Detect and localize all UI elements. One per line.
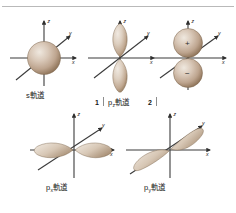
caption-px-sub: x — [50, 187, 53, 193]
panel-py-orbital: z y x py軌道 — [124, 108, 216, 184]
axis-label-z: z — [173, 111, 177, 117]
px-lobe-left — [34, 143, 73, 158]
panel-px-orbital: z y x px軌道 — [28, 108, 120, 184]
axis-label-x: x — [205, 151, 209, 157]
axis-label-z: z — [77, 111, 81, 117]
caption-pz-sub: z — [112, 102, 115, 108]
axis-label-x: x — [71, 59, 75, 65]
sign-minus: − — [185, 69, 190, 78]
pz-signed-diagram: + − z y x — [152, 14, 230, 92]
axis-label-z: z — [123, 18, 127, 24]
caption-s-suffix: 軌道 — [30, 91, 44, 100]
caption-py-sub: y — [148, 187, 151, 193]
py-lobe-upper-right — [171, 128, 203, 150]
pz-orbital-diagram: z y x — [86, 14, 158, 92]
caption-s-orbital: s軌道 — [26, 92, 44, 100]
px-orbital-diagram: z y x — [28, 108, 120, 184]
axis-label-y: y — [101, 122, 105, 128]
orbital-figure: z y x s軌道 z y x pz軌道 1 2 — [0, 0, 236, 213]
figure-mark-1: 1 — [95, 99, 99, 106]
py-lobe-lower-left — [134, 150, 169, 171]
caption-py-suffix: 軌道 — [151, 183, 165, 192]
caption-py-orbital: py軌道 — [144, 184, 166, 192]
caption-pz-suffix: 軌道 — [115, 98, 129, 107]
panel-pz-orbital-signed: + − z y x — [152, 14, 230, 92]
axis-label-x: x — [109, 151, 113, 157]
caption-px-orbital: px軌道 — [46, 184, 68, 192]
caption-px-suffix: 軌道 — [53, 183, 67, 192]
axis-label-y: y — [201, 120, 205, 126]
axis-label-z: z — [191, 18, 195, 24]
pz-lobe-top — [113, 24, 127, 57]
axis-label-x: x — [221, 59, 225, 65]
axis-label-y: y — [68, 30, 72, 36]
sign-plus: + — [185, 39, 190, 48]
caption-pz-orbital: pz軌道 — [108, 99, 130, 107]
s-orbital-sphere — [28, 42, 61, 75]
figure-mark-1-bar — [103, 97, 104, 106]
pz-lobe-bottom — [113, 59, 127, 92]
panel-s-orbital: z y x s軌道 — [6, 14, 82, 92]
s-orbital-diagram: z y x — [6, 14, 82, 92]
axis-label-y: y — [146, 30, 150, 36]
figure-mark-2: 2 — [148, 99, 152, 106]
panel-pz-orbital: z y x pz軌道 1 2 — [86, 14, 158, 92]
py-orbital-diagram: z y x — [124, 108, 216, 184]
top-divider-rule — [2, 6, 234, 7]
axis-label-z: z — [47, 18, 51, 24]
axis-label-y: y — [217, 30, 221, 36]
px-lobe-right — [75, 143, 112, 158]
figure-mark-2-bar — [156, 97, 157, 106]
